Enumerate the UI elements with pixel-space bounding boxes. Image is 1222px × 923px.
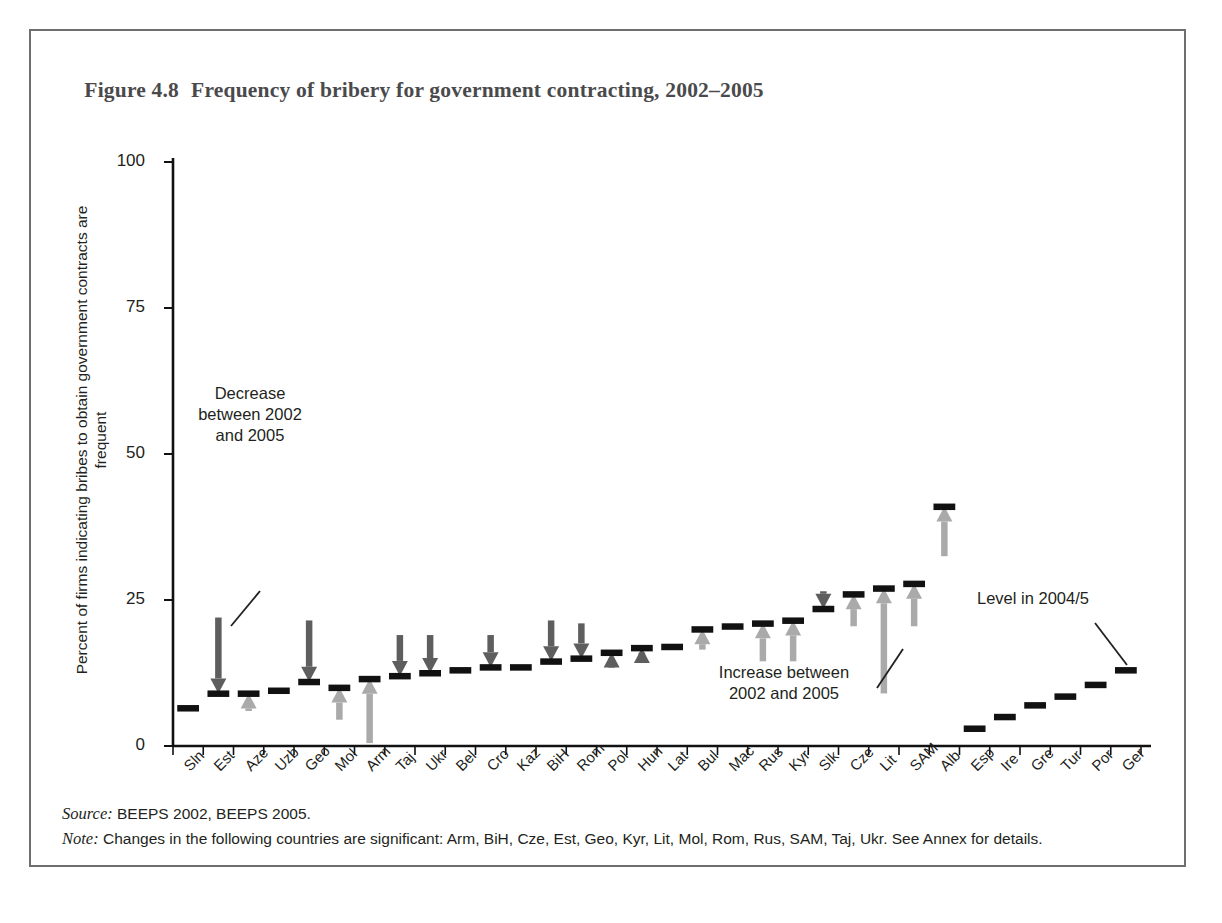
x-tick-label-est: Est	[210, 747, 237, 774]
x-tick-label-sln: Sln	[180, 747, 207, 774]
x-tick-label-mol: Mol	[331, 745, 360, 774]
footnote-note-text: Changes in the following countries are s…	[103, 830, 1043, 847]
x-tick-label-rus: Rus	[755, 743, 786, 774]
x-tick-label-taj: Taj	[392, 748, 418, 774]
footnote-source-text: BEEPS 2002, BEEPS 2005.	[117, 805, 311, 822]
x-tick-label-uzb: Uzb	[271, 743, 302, 774]
annotation-decrease: Decrease between 2002 and 2005	[170, 383, 330, 446]
x-tick-label-tur: Tur	[1057, 746, 1085, 774]
x-tick-label-bih: BiH	[543, 745, 572, 774]
x-tick-label-lat: Lat	[664, 747, 691, 774]
x-tick-label-ire: Ire	[997, 750, 1021, 774]
x-tick-label-gre: Gre	[1027, 744, 1057, 774]
x-tick-label-arm: Arm	[362, 743, 393, 774]
footnote-source-label: Source:	[62, 804, 113, 823]
x-tick-label-hun: Hun	[634, 743, 665, 774]
annotation-increase: Increase between 2002 and 2005	[669, 662, 899, 704]
x-tick-label-pol: Pol	[604, 747, 631, 774]
x-tick-label-ukr: Ukr	[422, 746, 451, 775]
x-tick-label-kaz: Kaz	[513, 744, 543, 774]
x-tick-label-aze: Aze	[241, 744, 271, 774]
x-tick-label-esp: Esp	[967, 744, 997, 774]
x-tick-label-por: Por	[1088, 745, 1117, 774]
y-axis-title: Percent of firms indicating bribes to ob…	[72, 205, 110, 675]
figure-frame: Figure 4.8Frequency of bribery for gover…	[29, 29, 1186, 867]
x-tick-label-ger: Ger	[1118, 744, 1148, 774]
x-tick-label-slk: Slk	[815, 747, 842, 774]
x-tick-label-cze: Cze	[846, 743, 877, 774]
footnote-source: Source: BEEPS 2002, BEEPS 2005.	[62, 801, 1152, 826]
x-tick-label-bel: Bel	[452, 747, 479, 774]
x-tick-label-kyr: Kyr	[785, 746, 813, 774]
x-tick-label-geo: Geo	[301, 742, 333, 774]
footnote-note: Note: Changes in the following countries…	[62, 826, 1152, 851]
x-tick-label-bul: Bul	[694, 747, 721, 774]
x-tick-label-sam: SAM	[906, 739, 941, 774]
footnotes: Source: BEEPS 2002, BEEPS 2005. Note: Ch…	[62, 801, 1152, 851]
x-axis-tick-labels: SlnEstAzeUzbGeoMolArmTajUkrBelCroKazBiHR…	[31, 31, 1188, 869]
x-tick-label-lit: Lit	[876, 751, 899, 774]
x-tick-label-mac: Mac	[725, 742, 757, 774]
x-tick-label-rom: Rom	[573, 740, 607, 774]
annotation-level: Level in 2004/5	[977, 588, 1157, 609]
footnote-note-label: Note:	[62, 829, 99, 848]
x-tick-label-cro: Cro	[483, 745, 512, 774]
